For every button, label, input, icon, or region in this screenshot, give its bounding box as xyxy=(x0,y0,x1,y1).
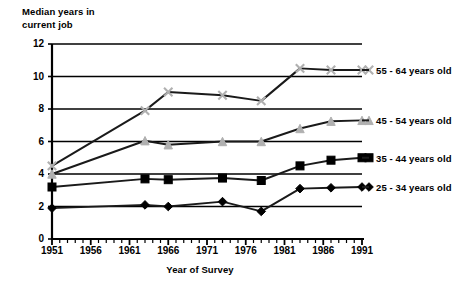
series-line-0 xyxy=(52,68,362,166)
x-tick-label-1951: 1951 xyxy=(32,246,72,256)
chart-container: Median years in current job 024681012 19… xyxy=(0,0,472,294)
marker-3-4 xyxy=(257,207,266,216)
marker-2-4 xyxy=(257,177,265,185)
x-axis-title: Year of Survey xyxy=(0,264,400,275)
marker-3-1 xyxy=(141,201,150,210)
marker-2-1 xyxy=(141,175,149,183)
y-tick-label-2: 2 xyxy=(22,202,44,212)
y-tick-label-6: 6 xyxy=(22,137,44,147)
marker-2-6 xyxy=(327,156,335,164)
x-tick-label-1981: 1981 xyxy=(265,246,305,256)
y-tick-label-10: 10 xyxy=(22,72,44,82)
y-tick-label-0: 0 xyxy=(22,234,44,244)
marker-3-2 xyxy=(164,202,173,211)
series-line-1 xyxy=(52,120,362,174)
x-tick-label-1971: 1971 xyxy=(187,246,227,256)
x-tick-label-1966: 1966 xyxy=(148,246,188,256)
x-tick-label-1986: 1986 xyxy=(303,246,343,256)
y-tick-label-12: 12 xyxy=(22,39,44,49)
x-tick-label-1976: 1976 xyxy=(226,246,266,256)
marker-3-3 xyxy=(218,197,227,206)
marker-2-2 xyxy=(164,176,172,184)
marker-0-1 xyxy=(141,106,149,114)
x-tick-label-1956: 1956 xyxy=(71,246,111,256)
x-tick-label-1991: 1991 xyxy=(342,246,382,256)
y-tick-label-4: 4 xyxy=(22,169,44,179)
marker-2-0 xyxy=(48,183,56,191)
marker-3-5 xyxy=(296,184,305,193)
legend-item-1: 45 - 54 years old xyxy=(376,115,452,126)
y-tick-label-8: 8 xyxy=(22,104,44,114)
legend-item-3: 25 - 34 years old xyxy=(376,182,452,193)
legend-item-0: 55 - 64 years old xyxy=(376,65,452,76)
marker-2-3 xyxy=(219,174,227,182)
legend-connectors xyxy=(362,70,369,187)
series-line-2 xyxy=(52,158,362,187)
marker-3-0 xyxy=(48,204,57,213)
marker-2-5 xyxy=(296,162,304,170)
x-tick-label-1961: 1961 xyxy=(110,246,150,256)
marker-3-6 xyxy=(327,184,336,193)
legend-item-2: 35 - 44 years old xyxy=(376,153,452,164)
series-line-3 xyxy=(52,187,362,211)
series-lines xyxy=(52,68,362,211)
